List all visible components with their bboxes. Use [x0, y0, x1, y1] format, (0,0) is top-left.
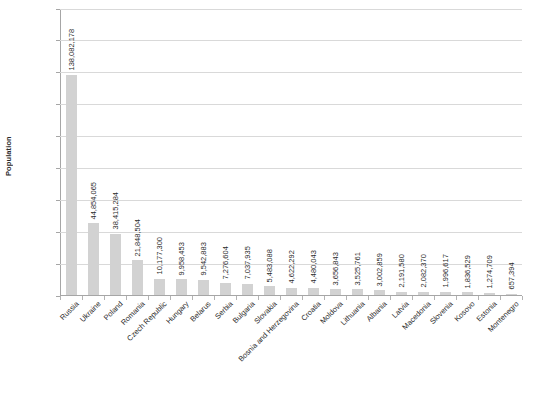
bar-value-label: 2,191,580 — [398, 254, 406, 287]
x-axis-category-labels: RussiaUkrainePolandRomaniaCzech Republic… — [60, 300, 522, 405]
bar-value-label: 3,525,761 — [354, 252, 362, 285]
y-tick-mark — [56, 136, 60, 137]
bar[interactable]: 2,191,580 — [396, 292, 407, 295]
bar-value-label: 21,848,504 — [134, 219, 142, 257]
bar-value-label: 7,276,604 — [222, 246, 230, 279]
bar[interactable]: 21,848,504 — [132, 260, 143, 295]
bar-value-label: 2,082,370 — [420, 254, 428, 287]
bar[interactable]: 38,415,284 — [110, 234, 121, 295]
x-axis-label-text: Albania — [365, 300, 388, 323]
x-axis-label-text: Hungary — [165, 300, 190, 325]
bar[interactable]: 1,836,529 — [462, 292, 473, 295]
bar-value-label: 1,836,529 — [464, 255, 472, 288]
y-tick-mark — [56, 72, 60, 73]
bar-value-label: 38,415,284 — [112, 192, 120, 230]
bar-value-label: 657,394 — [508, 263, 516, 290]
bar-value-label: 4,622,292 — [288, 250, 296, 283]
bar[interactable]: 1,996,617 — [440, 292, 451, 295]
y-axis-title: Population — [2, 121, 14, 191]
bar-value-label: 4,480,043 — [310, 250, 318, 283]
bar[interactable]: 9,958,453 — [176, 279, 187, 295]
bar[interactable]: 3,525,761 — [352, 289, 363, 295]
y-gridline — [60, 200, 522, 201]
y-gridline — [60, 72, 522, 73]
y-gridline — [60, 9, 522, 10]
y-tick-mark — [56, 264, 60, 265]
y-tick-mark — [56, 168, 60, 169]
bar[interactable]: 5,483,088 — [264, 286, 275, 295]
bar[interactable]: 138,082,178 — [66, 75, 77, 295]
bar-value-label: 9,958,453 — [178, 242, 186, 275]
y-tick-mark — [56, 232, 60, 233]
y-gridline — [60, 136, 522, 137]
bar-value-label: 5,483,088 — [266, 249, 274, 282]
y-tick-mark — [56, 200, 60, 201]
x-tick-mark — [522, 296, 523, 300]
bar-value-label: 1,274,709 — [486, 256, 494, 289]
y-tick-mark — [56, 40, 60, 41]
y-gridline — [60, 168, 522, 169]
x-axis-line — [60, 295, 522, 296]
bar-value-label: 10,177,300 — [156, 237, 164, 275]
bar[interactable]: 1,274,709 — [484, 293, 495, 295]
x-axis-label-text: Slovenia — [429, 300, 455, 326]
bar-value-label: 9,542,883 — [200, 242, 208, 275]
bar[interactable]: 10,177,300 — [154, 279, 165, 295]
y-gridline — [60, 104, 522, 105]
bar[interactable]: 7,276,604 — [220, 283, 231, 295]
y-axis-line — [60, 9, 61, 296]
bar-value-label: 3,002,859 — [376, 253, 384, 286]
bar[interactable]: 3,656,843 — [330, 289, 341, 295]
bar-value-label: 138,082,178 — [68, 29, 76, 71]
x-axis-label-text: Bulgaria — [232, 300, 257, 325]
y-tick-mark — [56, 104, 60, 105]
bar[interactable]: 657,394 — [506, 294, 517, 295]
bar-value-label: 44,854,065 — [90, 182, 98, 220]
bar[interactable]: 3,002,859 — [374, 290, 385, 295]
x-axis-label-text: Russia — [59, 300, 81, 322]
bar-value-label: 1,996,617 — [442, 254, 450, 287]
y-gridline — [60, 40, 522, 41]
population-bar-chart: Population 180,000,000160,000,000140,000… — [0, 0, 533, 405]
x-axis-label-text: Kosovo — [453, 300, 476, 323]
x-axis-label-text: Belarus — [189, 300, 212, 323]
bar[interactable]: 44,854,065 — [88, 223, 99, 295]
y-tick-mark — [56, 9, 60, 10]
bar[interactable]: 9,542,883 — [198, 280, 209, 295]
bar-value-label: 7,037,935 — [244, 246, 252, 279]
bar-value-label: 3,656,843 — [332, 252, 340, 285]
bar[interactable]: 4,622,292 — [286, 288, 297, 295]
bar[interactable]: 4,480,043 — [308, 288, 319, 295]
bar[interactable]: 2,082,370 — [418, 292, 429, 295]
plot-area: 180,000,000160,000,000140,000,000120,000… — [60, 9, 522, 296]
y-gridline — [60, 232, 522, 233]
x-axis-label-text: Ukraine — [79, 300, 103, 324]
bar[interactable]: 7,037,935 — [242, 284, 253, 295]
